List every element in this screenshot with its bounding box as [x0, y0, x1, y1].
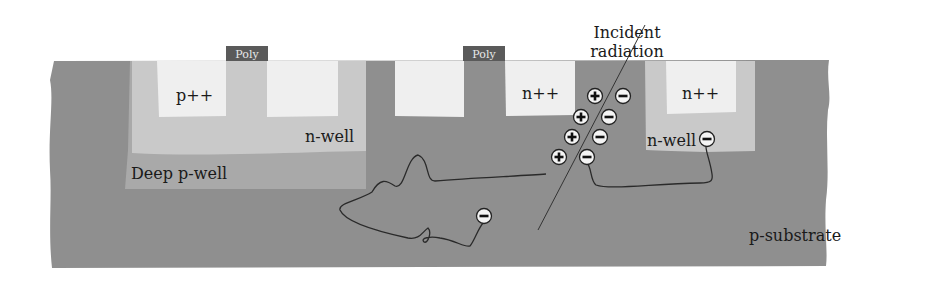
- electron-charge-icon: [700, 132, 715, 147]
- electron-charge-icon: [593, 130, 608, 145]
- electron-charge-icon: [602, 110, 617, 125]
- n-plus-plus-center-label: n++: [522, 84, 559, 103]
- electron-charge-icon: [477, 209, 492, 224]
- center-diffusion-left: [395, 61, 464, 117]
- deep-p-well-label: Deep p-well: [131, 164, 227, 183]
- n-well-left-label: n-well: [305, 127, 354, 146]
- electron-charge-icon: [580, 150, 595, 165]
- incident-radiation-label-line1: Incident: [593, 23, 661, 42]
- p-plus-plus-label: p++: [176, 86, 213, 105]
- cmos-cross-section-diagram: Poly Poly p++ n-well Deep p-well n++ n++…: [0, 0, 925, 285]
- n-well-right-label: n-well: [647, 131, 696, 150]
- hole-charge-icon: [552, 150, 567, 165]
- hole-charge-icon: [574, 110, 589, 125]
- hole-charge-icon: [588, 89, 603, 104]
- electron-charge-icon: [616, 89, 631, 104]
- p-substrate-label: p-substrate: [749, 226, 841, 245]
- left-nwell-diffusion-right: [267, 61, 338, 117]
- hole-charge-icon: [565, 130, 580, 145]
- poly-gate-center-label: Poly: [472, 48, 496, 61]
- incident-radiation-label-line2: radiation: [590, 42, 664, 61]
- poly-gate-left-label: Poly: [235, 48, 259, 61]
- n-plus-plus-right-label: n++: [682, 84, 719, 103]
